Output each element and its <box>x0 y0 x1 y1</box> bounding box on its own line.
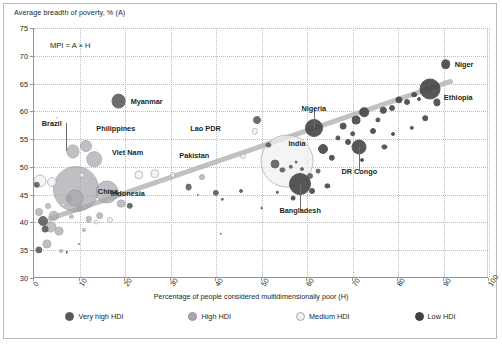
legend-label: Medium HDI <box>309 312 350 321</box>
chart-page: Average breadth of poverty, % (A) Myanma… <box>0 0 502 345</box>
x-tick-label: 60 <box>304 276 316 288</box>
x-tick-label: 20 <box>122 276 134 288</box>
legend-label: Very high HDI <box>78 312 123 321</box>
legend-item-high-hdi[interactable]: High HDI <box>188 312 231 321</box>
legend-swatch-icon <box>296 312 305 321</box>
legend-swatch-icon <box>65 312 74 321</box>
legend-swatch-icon <box>188 312 197 321</box>
x-tick-label: 40 <box>213 276 225 288</box>
legend-label: High HDI <box>201 312 231 321</box>
legend-item-low-hdi[interactable]: Low HDI <box>415 312 456 321</box>
x-tick-label: 100 <box>486 273 500 288</box>
legend-item-medium-hdi[interactable]: Medium HDI <box>296 312 350 321</box>
legend-item-very-high-hdi[interactable]: Very high HDI <box>65 312 123 321</box>
legend-swatch-icon <box>415 312 424 321</box>
x-tick-label: 0 <box>31 280 41 289</box>
legend-label: Low HDI <box>428 312 456 321</box>
x-axis-title: Percentage of people considered multidim… <box>0 292 502 301</box>
x-tick-label: 80 <box>395 276 407 288</box>
legend: Very high HDIHigh HDIMedium HDILow HDI <box>33 312 488 321</box>
